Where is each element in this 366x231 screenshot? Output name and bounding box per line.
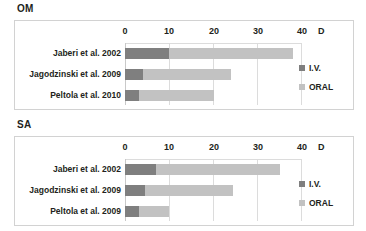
plot-area-sa [125, 159, 302, 221]
legend-item-iv[interactable]: I.V. [299, 63, 345, 73]
bar-segment-iv [125, 185, 145, 196]
bar-segment-oral [139, 90, 214, 101]
category-label-peltola: Peltola et al. 2009 [50, 206, 121, 216]
category-label-peltola: Peltola et al. 2010 [50, 90, 121, 100]
x-axis-tick-labels-om: 0 10 20 30 40 [125, 26, 315, 40]
legend-label-oral: ORAL [309, 198, 333, 208]
bar-segment-oral [169, 48, 293, 59]
legend-swatch-oral-icon [299, 84, 305, 90]
legend-item-oral[interactable]: ORAL [299, 198, 345, 208]
category-label-jagodzinski: Jagodzinski et al. 2009 [29, 185, 121, 195]
bar-segment-iv [125, 69, 143, 80]
legend-label-iv: I.V. [309, 63, 321, 73]
x-tick-20: 20 [209, 142, 219, 152]
legend-swatch-iv-icon [299, 65, 305, 71]
plot-area-om [125, 43, 302, 105]
legend-label-oral: ORAL [309, 82, 333, 92]
bar-segment-iv [125, 164, 156, 175]
legend-swatch-oral-icon [299, 200, 305, 206]
legend-label-iv: I.V. [309, 179, 321, 189]
panel-title-om: OM [17, 3, 34, 14]
chart-panel-om: OM 0 10 20 30 40 D Jaberi et al. 2002 Ja… [0, 0, 366, 115]
legend-item-oral[interactable]: ORAL [299, 82, 345, 92]
x-tick-0: 0 [122, 26, 127, 36]
panel-title-sa: SA [17, 119, 32, 130]
category-label-jaberi: Jaberi et al. 2002 [53, 48, 121, 58]
category-labels-sa: Jaberi et al. 2002 Jagodzinski et al. 20… [21, 159, 121, 221]
x-tick-20: 20 [209, 26, 219, 36]
legend-sa: I.V. ORAL [299, 179, 345, 217]
x-tick-40: 40 [297, 26, 307, 36]
chart-panel-sa: SA 0 10 20 30 40 D Jaberi et al. 2002 Ja… [0, 116, 366, 231]
legend-item-iv[interactable]: I.V. [299, 179, 345, 189]
x-axis-unit-label-om: D [318, 26, 325, 36]
bar-segment-iv [125, 206, 139, 217]
chart-frame-sa: 0 10 20 30 40 D Jaberi et al. 2002 Jagod… [14, 136, 354, 226]
legend-swatch-iv-icon [299, 181, 305, 187]
x-tick-0: 0 [122, 142, 127, 152]
bar-segment-oral [145, 185, 233, 196]
bar-segment-oral [156, 164, 280, 175]
x-tick-10: 10 [164, 26, 174, 36]
x-axis-unit-label-sa: D [318, 142, 325, 152]
chart-frame-om: 0 10 20 30 40 D Jaberi et al. 2002 Jagod… [14, 20, 354, 110]
x-tick-30: 30 [253, 26, 263, 36]
x-tick-40: 40 [297, 142, 307, 152]
bar-segment-oral [139, 206, 169, 217]
category-label-jagodzinski: Jagodzinski et al. 2009 [29, 69, 121, 79]
x-tick-10: 10 [164, 142, 174, 152]
x-axis-tick-labels-sa: 0 10 20 30 40 [125, 142, 315, 156]
category-label-jaberi: Jaberi et al. 2002 [53, 164, 121, 174]
bar-segment-iv [125, 48, 169, 59]
category-labels-om: Jaberi et al. 2002 Jagodzinski et al. 20… [21, 43, 121, 105]
x-tick-30: 30 [253, 142, 263, 152]
bar-segment-iv [125, 90, 139, 101]
bar-segment-oral [143, 69, 231, 80]
legend-om: I.V. ORAL [299, 63, 345, 101]
